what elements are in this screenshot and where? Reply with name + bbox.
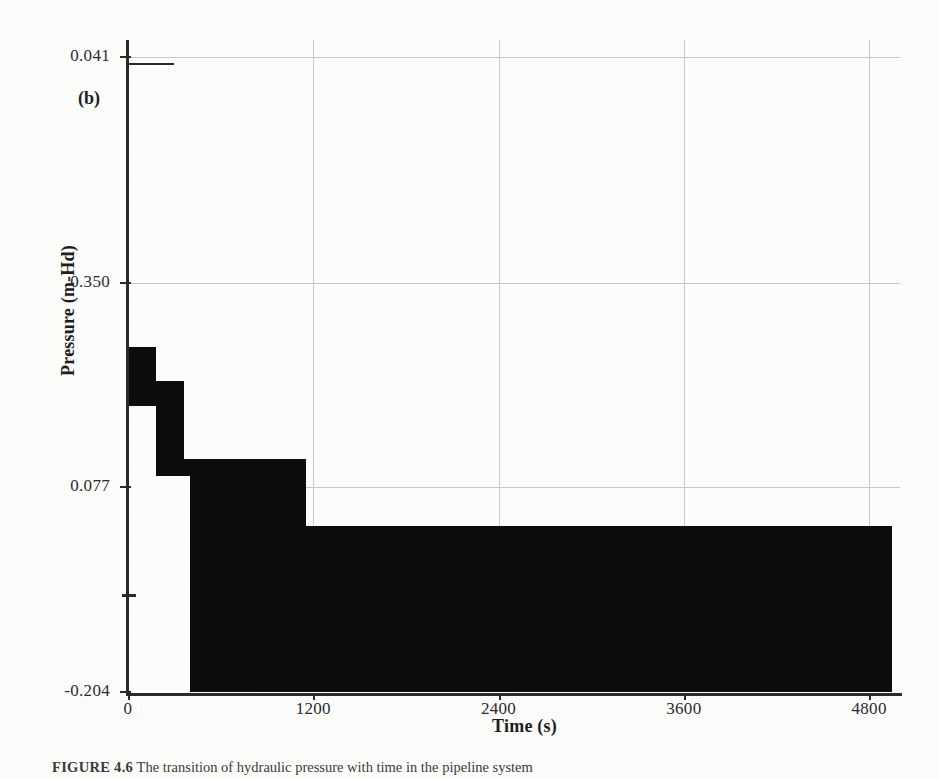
gridline-horizontal-0 — [128, 57, 900, 58]
caption-number: FIGURE 4.6 — [52, 759, 133, 775]
figure-caption: FIGURE 4.6 The transition of hydraulic p… — [52, 758, 892, 778]
y-axis-line — [126, 40, 129, 696]
scanned-page: 0.0410.3500.077-0.20401200240036004800 P… — [0, 0, 939, 779]
x-axis-title: Time (s) — [0, 716, 939, 737]
y-axis-title: Pressure (m-Hd) — [58, 181, 79, 441]
y-tick-label-0: 0.041 — [0, 46, 118, 66]
top-tick-stub — [128, 63, 174, 65]
panel-label: (b) — [78, 88, 100, 109]
series-step-3 — [184, 459, 306, 692]
series-step-4 — [306, 526, 893, 692]
figure-panel-b: 0.0410.3500.077-0.20401200240036004800 P… — [0, 0, 939, 779]
x-axis-line — [126, 693, 902, 696]
series-notch-2 — [156, 476, 190, 692]
y-tick-label-3: -0.204 — [0, 681, 118, 701]
y-tick-2 — [120, 486, 131, 488]
y-tick-1 — [120, 282, 131, 284]
series-notch-1 — [128, 406, 156, 692]
y-tick-label-2: 0.077 — [0, 476, 118, 496]
y-tick-0 — [120, 56, 131, 58]
plot-area — [128, 40, 900, 692]
caption-body: The transition of hydraulic pressure wit… — [137, 759, 533, 775]
gridline-horizontal-1 — [128, 283, 900, 284]
y-minor-tick — [122, 594, 136, 597]
